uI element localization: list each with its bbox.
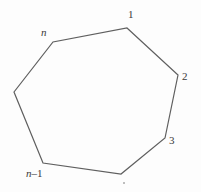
vertex-label-n-minus-1: n–1	[26, 168, 43, 179]
polygon-figure	[0, 0, 201, 192]
vertex-label-n-minus-1-suffix: –1	[32, 167, 43, 179]
polygon-diagram: 1 2 3 n n–1	[0, 0, 201, 192]
continuation-dot	[123, 182, 125, 184]
vertex-label-n: n	[41, 27, 47, 38]
polygon-outline	[14, 28, 178, 174]
vertex-label-2: 2	[182, 71, 188, 82]
vertex-label-3: 3	[169, 135, 175, 146]
vertex-label-1: 1	[128, 9, 134, 20]
